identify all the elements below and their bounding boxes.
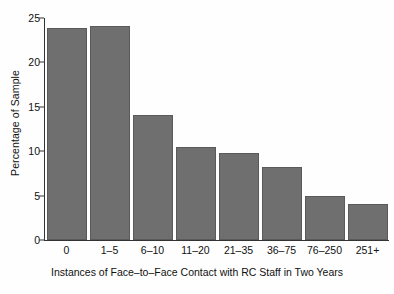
x-axis-tick-label: 21–35 xyxy=(224,244,253,256)
bar xyxy=(176,147,216,240)
x-axis-tick-label: 76–250 xyxy=(307,244,342,256)
y-axis-tick-label: 0 xyxy=(34,234,40,246)
bar xyxy=(348,204,388,240)
bar xyxy=(305,196,345,240)
bar xyxy=(133,115,173,240)
x-axis-tick-label: 0 xyxy=(64,244,70,256)
x-axis-line xyxy=(44,240,389,241)
x-axis-title: Instances of Face–to–Face Contact with R… xyxy=(0,266,394,278)
x-axis-tick-labels: 01–56–1011–2021–3536–7576–250251+ xyxy=(45,244,389,260)
y-axis-tick-label: 15 xyxy=(28,101,40,113)
x-axis-tick-label: 251+ xyxy=(356,244,380,256)
y-axis-tick-label: 5 xyxy=(34,190,40,202)
x-axis-tick-label: 11–20 xyxy=(181,244,209,256)
x-axis-tick-label: 1–5 xyxy=(101,244,119,256)
y-axis-title-text: Percentage of Sample xyxy=(9,70,21,176)
bar xyxy=(47,28,87,240)
bar xyxy=(90,26,130,240)
y-axis-tick-label: 25 xyxy=(28,12,40,24)
bar-chart-figure: Percentage of Sample 0510152025 01–56–10… xyxy=(0,0,394,294)
plot-area xyxy=(45,18,389,240)
x-axis-tick-label: 6–10 xyxy=(141,244,164,256)
y-axis-tick-label: 10 xyxy=(28,145,40,157)
y-axis-tick-labels: 0510152025 xyxy=(22,0,40,294)
bar xyxy=(262,167,302,240)
bar xyxy=(219,153,259,240)
bars-group xyxy=(45,18,389,240)
x-axis-tick-label: 36–75 xyxy=(267,244,296,256)
y-axis-tick-label: 20 xyxy=(28,56,40,68)
